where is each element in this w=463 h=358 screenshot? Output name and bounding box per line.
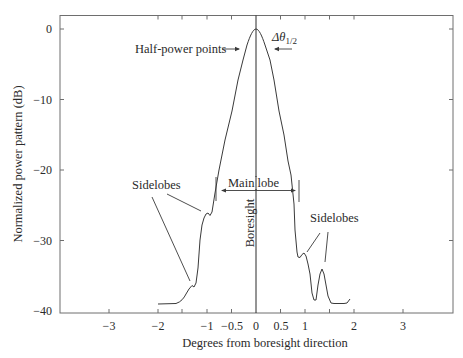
main-lobe-label: Main lobe xyxy=(228,176,279,190)
sidelobes-right-label: Sidelobes xyxy=(310,211,359,225)
sidelobes-right-pointer-1 xyxy=(307,233,320,252)
x-tick-0-5: 0.5 xyxy=(274,319,289,333)
antenna-pattern-chart: 0 −10 −20 −30 −40 −3 −2 −1 −0.5 0 0.5 1 … xyxy=(0,0,463,358)
x-axis-label: Degrees from boresight direction xyxy=(182,336,348,350)
delta-theta-subscript: 1/2 xyxy=(285,36,297,46)
y-tick-minus40: −40 xyxy=(33,304,52,318)
x-tick-0: 0 xyxy=(253,319,259,333)
y-axis-label: Normalized power pattern (dB) xyxy=(11,85,25,242)
delta-theta-label: Δθ1/2 xyxy=(271,30,297,46)
half-power-label: Half-power points xyxy=(135,42,226,56)
y-tick-minus20: −20 xyxy=(33,163,52,177)
x-tick-minus3: −3 xyxy=(103,319,116,333)
sidelobes-left-pointer-1 xyxy=(152,197,190,281)
delta-theta-arrow xyxy=(274,47,292,51)
x-tick-3: 3 xyxy=(400,319,406,333)
boresight-label: Boresight xyxy=(243,198,257,247)
y-tick-labels: 0 −10 −20 −30 −40 xyxy=(33,22,52,318)
sidelobes-right-pointer-2 xyxy=(325,232,328,262)
y-tick-minus30: −30 xyxy=(33,234,52,248)
sidelobes-left-pointer-2 xyxy=(167,194,201,211)
power-pattern-curve xyxy=(158,29,350,304)
y-tick-minus10: −10 xyxy=(33,93,52,107)
x-tick-minus0-5: −0.5 xyxy=(221,319,243,333)
x-tick-minus1: −1 xyxy=(201,319,214,333)
chart-svg: 0 −10 −20 −30 −40 −3 −2 −1 −0.5 0 0.5 1 … xyxy=(0,0,463,358)
x-tick-labels: −3 −2 −1 −0.5 0 0.5 1 2 3 xyxy=(103,319,406,333)
x-tick-minus2: −2 xyxy=(152,319,165,333)
sidelobes-left-label: Sidelobes xyxy=(132,178,181,192)
y-tick-0: 0 xyxy=(46,22,52,36)
x-tick-2: 2 xyxy=(351,319,357,333)
x-tick-1: 1 xyxy=(302,319,308,333)
delta-theta-symbol: Δθ xyxy=(271,30,285,44)
